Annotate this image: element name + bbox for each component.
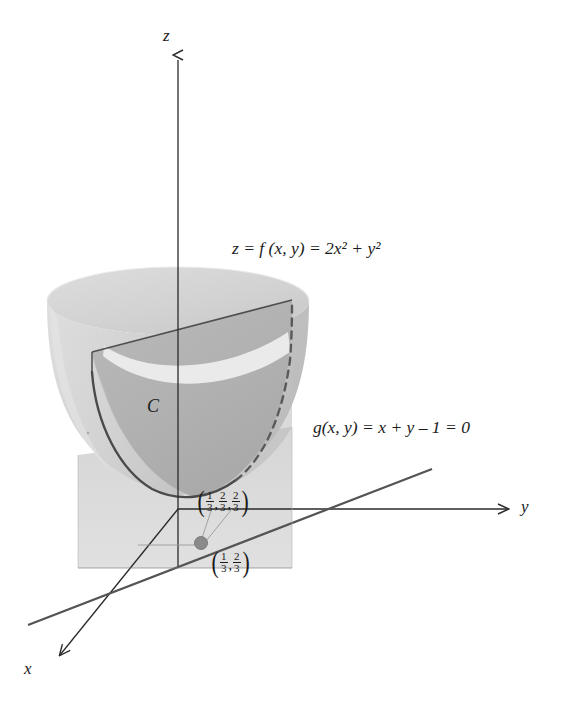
fraction-two-thirds-b: 2 3 bbox=[232, 490, 240, 513]
comma: , bbox=[215, 497, 219, 514]
comma: , bbox=[229, 558, 233, 575]
surface-point-label: ( 1 3 , 2 3 , 2 3 ) bbox=[196, 489, 250, 514]
curve-c-label: C bbox=[147, 396, 159, 417]
x-axis-label: x bbox=[24, 659, 32, 679]
scan-speck bbox=[87, 432, 89, 434]
fraction-two-thirds-a: 2 3 bbox=[219, 490, 227, 513]
z-axis-label: z bbox=[163, 26, 170, 46]
fraction-one-third: 1 3 bbox=[206, 490, 214, 513]
paren-close: ) bbox=[242, 550, 249, 575]
fraction-one-third: 1 3 bbox=[220, 551, 228, 574]
base-point-label: ( 1 3 , 2 3 ) bbox=[210, 550, 251, 575]
paren-open: ( bbox=[197, 489, 204, 514]
lagrange-multiplier-diagram bbox=[0, 0, 563, 702]
y-axis-label: y bbox=[521, 497, 529, 517]
paren-close: ) bbox=[241, 489, 248, 514]
comma: , bbox=[228, 497, 232, 514]
paren-open: ( bbox=[211, 550, 218, 575]
fraction-two-thirds: 2 3 bbox=[233, 551, 241, 574]
base-point-dot bbox=[195, 537, 208, 550]
surface-equation-label: z = f (x, y) = 2x² + y² bbox=[232, 238, 380, 259]
constraint-equation-label: g(x, y) = x + y – 1 = 0 bbox=[313, 417, 470, 438]
